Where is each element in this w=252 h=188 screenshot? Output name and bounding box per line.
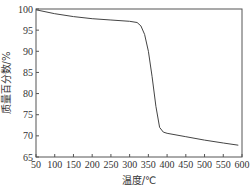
plot-frame — [36, 9, 242, 157]
y-axis-title: 质量百分数/% — [0, 52, 12, 115]
x-tick-label: 150 — [66, 159, 81, 170]
x-tick-label: 450 — [178, 159, 193, 170]
x-tick-label: 100 — [47, 159, 62, 170]
y-tick-label: 95 — [23, 25, 33, 36]
x-tick-label: 600 — [235, 159, 250, 170]
x-tick-label: 500 — [197, 159, 212, 170]
x-axis: 50100150200250300350400450500550600 — [31, 154, 250, 170]
y-tick-label: 75 — [23, 109, 33, 120]
y-tick-label: 80 — [23, 88, 33, 99]
tg-chart: 65707580859095100 5010015020025030035040… — [0, 0, 252, 188]
x-tick-label: 200 — [85, 159, 100, 170]
tg-curve — [36, 10, 238, 145]
x-axis-title: 温度/℃ — [122, 174, 157, 186]
x-tick-label: 400 — [160, 159, 175, 170]
y-tick-label: 100 — [18, 4, 33, 15]
y-tick-label: 70 — [23, 130, 33, 141]
x-tick-label: 550 — [216, 159, 231, 170]
x-tick-label: 50 — [31, 159, 41, 170]
y-tick-label: 90 — [23, 46, 33, 57]
y-tick-label: 85 — [23, 67, 33, 78]
x-tick-label: 350 — [141, 159, 156, 170]
x-tick-label: 250 — [103, 159, 118, 170]
x-tick-label: 300 — [122, 159, 137, 170]
